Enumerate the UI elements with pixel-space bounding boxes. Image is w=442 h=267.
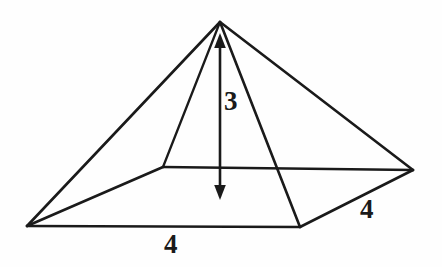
base-edge-front-right — [300, 170, 413, 227]
lateral-edge-left — [27, 22, 220, 226]
base-front-length-label: 4 — [164, 231, 178, 258]
base-right-length-label: 4 — [360, 196, 374, 223]
base-edge-front — [27, 226, 300, 227]
height-arrow-head-down — [214, 185, 226, 200]
lateral-edge-back — [163, 22, 220, 167]
height-arrow — [214, 33, 226, 200]
pyramid-figure: 3 4 4 — [0, 0, 442, 267]
base-edge-back-left — [27, 167, 163, 226]
base-edge-back-right — [163, 167, 413, 170]
pyramid-drawing — [0, 0, 442, 267]
height-label: 3 — [224, 88, 238, 115]
